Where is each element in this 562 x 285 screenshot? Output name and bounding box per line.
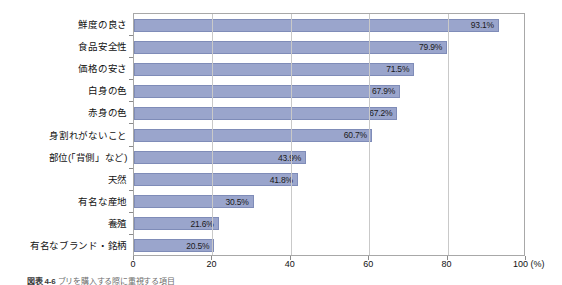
y-tick	[129, 146, 133, 147]
gridline-80	[448, 14, 449, 255]
y-tick	[129, 79, 133, 80]
bar: 30.5%	[134, 195, 254, 208]
bar-value-label: 30.5%	[225, 197, 248, 207]
bar: 67.2%	[134, 107, 397, 120]
bar: 67.9%	[134, 85, 400, 98]
bar-value-label: 67.9%	[372, 86, 395, 96]
gridline-60	[369, 14, 370, 255]
bar-value-label: 41.8%	[270, 175, 293, 185]
bar-row: 93.1%	[134, 14, 524, 36]
category-label: 身割れがないこと	[49, 128, 127, 142]
x-tick-label: 0	[130, 259, 135, 269]
category-label: 天然	[108, 172, 127, 186]
bar-value-label: 60.7%	[344, 130, 367, 140]
caption-number: 図表 4-6	[27, 277, 56, 285]
bar-row: 30.5%	[134, 191, 524, 213]
bar-row: 71.5%	[134, 58, 524, 80]
x-tick-label: 60	[363, 259, 373, 269]
bar: 60.7%	[134, 129, 372, 142]
category-label: 部位(「背側」など)	[49, 150, 127, 164]
bar-value-label: 21.6%	[191, 219, 214, 229]
category-label: 有名なブランド・銘柄	[30, 238, 127, 252]
bar-row: 67.9%	[134, 80, 524, 102]
bar-value-label: 71.5%	[386, 64, 409, 74]
bar-row: 79.9%	[134, 36, 524, 58]
gridline-40	[291, 14, 292, 255]
bar-value-label: 79.9%	[419, 42, 442, 52]
bar: 20.5%	[134, 239, 214, 252]
y-tick	[129, 234, 133, 235]
bar-value-label: 93.1%	[471, 20, 494, 30]
bar-chart: 鮮度の良さ食品安全性価格の安さ白身の色赤身の色身割れがないこと部位(「背側」など…	[0, 0, 562, 285]
caption-text: ブリを購入する際に重視する項目	[58, 277, 175, 285]
x-tick-label: 20	[206, 259, 216, 269]
category-label: 価格の安さ	[78, 61, 127, 75]
category-label: 白身の色	[88, 83, 127, 97]
bar-value-label: 20.5%	[186, 241, 209, 251]
y-tick	[129, 168, 133, 169]
category-label: 食品安全性	[78, 39, 127, 53]
bar: 93.1%	[134, 19, 499, 32]
bar: 43.9%	[134, 151, 306, 164]
bar-row: 43.9%	[134, 147, 524, 169]
bar: 41.8%	[134, 173, 298, 186]
bar: 21.6%	[134, 217, 219, 230]
y-tick	[129, 35, 133, 36]
y-tick	[129, 190, 133, 191]
category-label: 養殖	[108, 216, 127, 230]
y-tick	[129, 101, 133, 102]
bar-value-label: 67.2%	[369, 108, 392, 118]
figure-caption: 図表 4-6 ブリを購入する際に重視する項目	[27, 275, 527, 285]
bar-row: 21.6%	[134, 213, 524, 235]
y-tick	[129, 57, 133, 58]
category-label: 赤身の色	[88, 105, 127, 119]
bar-row: 20.5%	[134, 235, 524, 257]
category-label: 有名な産地	[78, 194, 127, 208]
y-tick	[129, 123, 133, 124]
bar-row: 60.7%	[134, 124, 524, 146]
gridline-20	[212, 14, 213, 255]
x-tick-label: 40	[285, 259, 295, 269]
bar-row: 67.2%	[134, 102, 524, 124]
x-tick-label: 100 (%)	[513, 259, 545, 269]
x-tick-label: 80	[442, 259, 452, 269]
bar-rows: 93.1%79.9%71.5%67.9%67.2%60.7%43.9%41.8%…	[134, 14, 524, 255]
bar-row: 41.8%	[134, 169, 524, 191]
category-label: 鮮度の良さ	[78, 17, 127, 31]
y-tick	[129, 212, 133, 213]
category-axis: 鮮度の良さ食品安全性価格の安さ白身の色赤身の色身割れがないこと部位(「背側」など…	[0, 13, 131, 256]
plot-area: 93.1%79.9%71.5%67.9%67.2%60.7%43.9%41.8%…	[133, 13, 525, 256]
bar: 71.5%	[134, 63, 414, 76]
bar-value-label: 43.9%	[278, 153, 301, 163]
